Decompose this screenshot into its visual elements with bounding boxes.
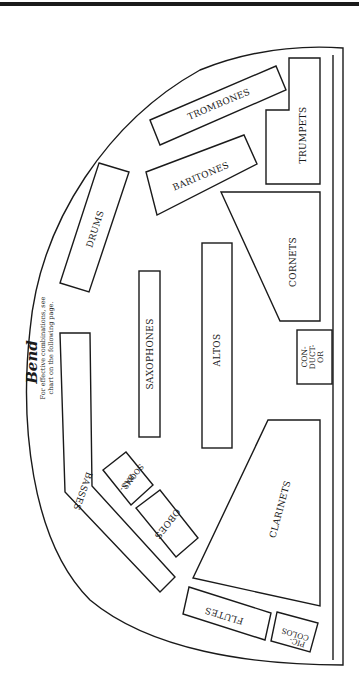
section-conductor[interactable]: CON- DUCT- OR bbox=[297, 330, 332, 384]
label-saxophones: SAXOPHONES bbox=[145, 318, 155, 389]
band-seating-diagram: TROMBONES TRUMPETS BARITONES DRUMS CORNE… bbox=[0, 0, 359, 698]
section-baritones[interactable]: BARITONES bbox=[146, 135, 257, 215]
section-drums[interactable]: DRUMS bbox=[60, 163, 129, 292]
label-cornets: CORNETS bbox=[288, 237, 298, 287]
section-bassoons[interactable]: BAS- SOONS bbox=[103, 452, 153, 505]
section-trumpets[interactable]: TRUMPETS bbox=[266, 58, 320, 184]
section-basses[interactable]: BASSES bbox=[60, 333, 175, 592]
label-trombones: TROMBONES bbox=[186, 87, 251, 122]
label-bassoons-2: SOONS bbox=[120, 462, 145, 491]
label-conductor-3: OR bbox=[316, 351, 325, 363]
label-basses: BASSES bbox=[71, 471, 94, 512]
label-altos: ALTOS bbox=[212, 334, 222, 368]
section-piccolos[interactable]: PIC- COLOS bbox=[271, 612, 318, 652]
section-cornets[interactable]: CORNETS bbox=[221, 192, 320, 321]
stage-outline bbox=[27, 47, 343, 665]
section-oboes[interactable]: OBOES bbox=[136, 490, 198, 557]
label-oboes: OBOES bbox=[152, 507, 182, 541]
label-clarinets: CLARINETS bbox=[268, 479, 293, 539]
section-saxophones[interactable]: SAXOPHONES bbox=[139, 271, 160, 437]
note-line-2: chart on the following page. bbox=[47, 302, 55, 395]
title-block: Bend For effective combinations, see cha… bbox=[23, 296, 55, 399]
note-line-1: For effective combinations, see bbox=[39, 296, 47, 399]
section-flutes[interactable]: FLUTES bbox=[183, 587, 271, 640]
section-altos[interactable]: ALTOS bbox=[202, 243, 232, 448]
label-flutes: FLUTES bbox=[204, 605, 245, 626]
label-trumpets: TRUMPETS bbox=[298, 107, 308, 164]
label-drums: DRUMS bbox=[84, 209, 105, 249]
label-baritones: BARITONES bbox=[171, 160, 230, 193]
